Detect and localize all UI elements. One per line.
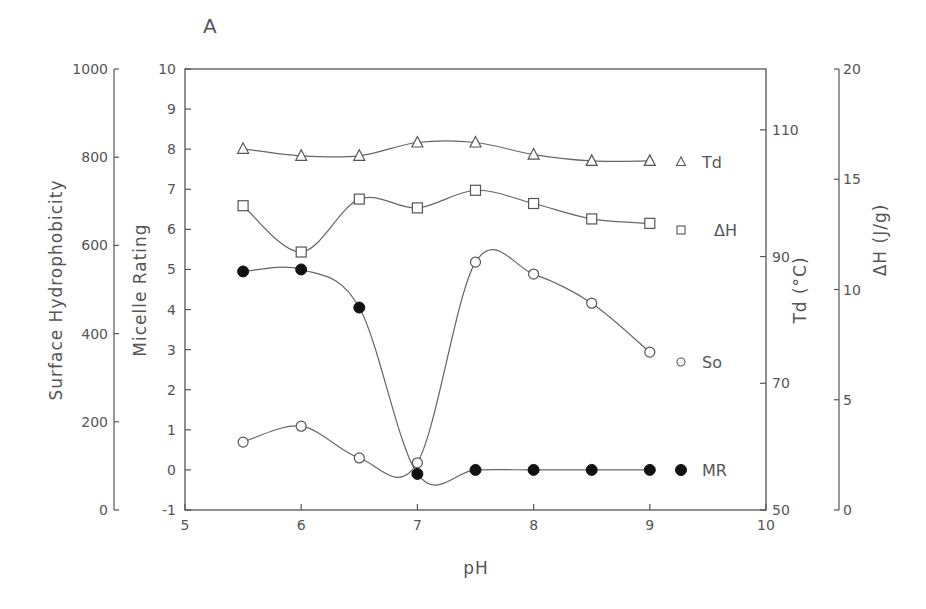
so-data-point (412, 458, 422, 468)
micelle-rating-tick-label: 3 (167, 342, 176, 358)
delta-h-tick-label: 5 (843, 392, 852, 408)
h-data-point (645, 218, 655, 228)
td-tick-label: 70 (772, 375, 790, 391)
legend-label: MR (702, 461, 727, 480)
x-axis-title: pH (463, 558, 489, 578)
so-data-point (529, 269, 539, 279)
delta-h-tick-label: 15 (843, 171, 861, 187)
so-data-point (296, 421, 306, 431)
delta-h-tick-label: 20 (843, 61, 861, 77)
h-data-point (529, 199, 539, 209)
td-data-point (644, 155, 655, 166)
micelle-rating-tick-label: 6 (167, 221, 176, 237)
micelle-rating-tick-label: 4 (167, 302, 176, 318)
axes: 5678910-1012345678910Micelle Rating02004… (46, 61, 890, 533)
surface-hydrophobicity-axis-title: Surface Hydrophobicity (46, 179, 66, 400)
legend-item: Td (677, 153, 722, 172)
so-data-point (471, 257, 481, 267)
so-data-point (354, 453, 364, 463)
mr-data-point (528, 464, 539, 475)
so-data-point (238, 437, 248, 447)
h-data-point (412, 203, 422, 213)
micelle-rating-tick-label: 9 (167, 101, 176, 117)
mr-data-point (238, 266, 249, 277)
series-mr (238, 264, 656, 485)
micelle-rating-tick-label: 10 (158, 61, 176, 77)
x-tick-label: 5 (181, 517, 190, 533)
h-data-point (471, 185, 481, 195)
h-data-point (354, 194, 364, 204)
series-h (238, 185, 655, 257)
plot-frame (185, 69, 766, 510)
legend-marker (677, 157, 686, 166)
micelle-rating-axis-title: Micelle Rating (130, 223, 150, 356)
surface-hydrophobicity-tick-label: 200 (81, 414, 108, 430)
legend-marker (677, 358, 685, 366)
x-tick-label: 7 (413, 517, 422, 533)
surface-hydrophobicity-tick-label: 400 (81, 326, 108, 342)
mr-data-point (412, 468, 423, 479)
legend-item: So (677, 353, 722, 372)
legend-item: MR (676, 461, 727, 480)
micelle-rating-tick-label: 0 (167, 462, 176, 478)
x-tick-label: 6 (297, 517, 306, 533)
chart: 5678910-1012345678910Micelle Rating02004… (0, 0, 926, 609)
x-tick-label: 8 (529, 517, 538, 533)
legend-marker (677, 226, 685, 234)
h-data-point (296, 247, 306, 257)
td-tick-label: 50 (772, 502, 790, 518)
mr-data-point (470, 464, 481, 475)
series-so (238, 250, 655, 478)
mr-data-point (644, 464, 655, 475)
delta-h-tick-label: 0 (843, 502, 852, 518)
micelle-rating-tick-label: 5 (167, 261, 176, 277)
td-tick-label: 110 (772, 122, 799, 138)
series-td (238, 137, 656, 166)
panel-label: A (203, 14, 217, 38)
legend-label: Td (701, 153, 722, 172)
legend-marker (676, 465, 687, 476)
surface-hydrophobicity-tick-label: 0 (99, 502, 108, 518)
series (238, 137, 656, 486)
td-tick-label: 90 (772, 249, 790, 265)
micelle-rating-tick-label: 7 (167, 181, 176, 197)
surface-hydrophobicity-tick-label: 600 (81, 237, 108, 253)
micelle-rating-tick-label: 1 (167, 422, 176, 438)
micelle-rating-tick-label: 2 (167, 382, 176, 398)
legend-label: ΔH (714, 221, 737, 240)
delta-h-axis-title: ΔH (J/g) (870, 204, 890, 277)
surface-hydrophobicity-tick-label: 800 (81, 149, 108, 165)
mr-data-point (296, 264, 307, 275)
legend-label: So (702, 353, 722, 372)
mr-data-point (354, 302, 365, 313)
delta-h-tick-label: 10 (843, 282, 861, 298)
h-data-point (587, 214, 597, 224)
x-tick-label: 9 (645, 517, 654, 533)
td-data-point (238, 143, 249, 154)
so-data-point (645, 347, 655, 357)
mr-data-point (586, 464, 597, 475)
so-data-point (587, 298, 597, 308)
td-axis-title: Td (°C) (790, 256, 810, 324)
legend: TdΔHSoMR (676, 153, 737, 480)
surface-hydrophobicity-tick-label: 1000 (72, 61, 108, 77)
x-tick-label: 10 (757, 517, 775, 533)
legend-item: ΔH (677, 221, 737, 240)
h-data-point (238, 201, 248, 211)
micelle-rating-tick-label: -1 (162, 502, 176, 518)
micelle-rating-tick-label: 8 (167, 141, 176, 157)
